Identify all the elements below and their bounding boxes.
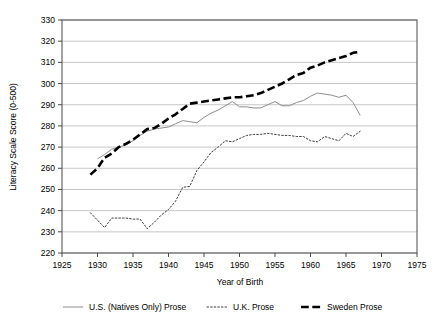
x-tick-label: 1955 [266,260,285,270]
legend-label-2: Sweden Prose [327,302,383,312]
y-tick-label: 260 [41,163,55,173]
y-tick-label: 220 [41,248,55,258]
y-tick-label: 250 [41,184,55,194]
x-tick-label: 1940 [159,260,178,270]
y-tick-label: 240 [41,206,55,216]
series-line-1 [90,131,360,228]
chart-container: 220230240250260270280290300310320330 192… [0,0,448,324]
x-tick-label: 1935 [124,260,143,270]
y-tick-label: 280 [41,121,55,131]
x-axis-ticks: 1925193019351940194519501955196019651970… [53,253,427,270]
x-tick-label: 1970 [372,260,391,270]
legend-label-1: U.K. Prose [233,302,274,312]
y-tick-label: 330 [41,15,55,25]
y-tick-label: 290 [41,100,55,110]
x-tick-label: 1930 [88,260,107,270]
y-tick-label: 320 [41,36,55,46]
x-tick-label: 1960 [301,260,320,270]
x-tick-label: 1945 [195,260,214,270]
data-series-group [90,52,360,229]
y-tick-label: 230 [41,227,55,237]
x-tick-label: 1965 [337,260,356,270]
literacy-line-chart: 220230240250260270280290300310320330 192… [0,0,448,324]
x-axis-title: Year of Birth [217,277,264,287]
y-axis-title: Literacy Scale Score (0-500) [8,83,18,191]
x-tick-label: 1925 [53,260,72,270]
y-axis-ticks: 220230240250260270280290300310320330 [41,15,62,258]
y-tick-label: 300 [41,79,55,89]
legend-label-0: U.S. (Natives Only) Prose [89,302,187,312]
x-tick-label: 1950 [230,260,249,270]
y-tick-label: 270 [41,142,55,152]
series-line-2 [90,52,360,175]
chart-legend: U.S. (Natives Only) ProseU.K. ProseSwede… [63,302,383,312]
x-tick-label: 1975 [408,260,427,270]
y-tick-label: 310 [41,57,55,67]
